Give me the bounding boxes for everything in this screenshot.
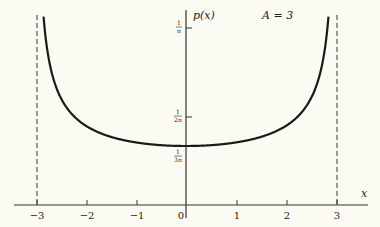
parameter-annotation: A = 3: [261, 9, 293, 22]
x-tick-label: 2: [284, 210, 290, 221]
y-tick-label-1-over-3pi: 1 3π: [174, 148, 182, 163]
svg-text:1: 1: [176, 108, 180, 115]
y-tick-label-1-over-pi: 1 π: [176, 19, 182, 34]
x-axis-label: x: [361, 187, 368, 200]
svg-text:1: 1: [176, 148, 180, 155]
x-tick-label: 3: [334, 210, 340, 221]
y-tick-label-1-over-2pi: 1 2π: [174, 108, 182, 123]
svg-text:1: 1: [177, 19, 181, 26]
svg-text:π: π: [177, 27, 181, 34]
x-ticks: [37, 200, 337, 205]
y-ticks: [186, 28, 192, 117]
svg-text:2π: 2π: [174, 116, 182, 123]
svg-text:3π: 3π: [174, 156, 182, 163]
y-axis-label: p(x): [193, 9, 215, 22]
x-tick-label: −2: [80, 210, 95, 221]
x-tick-label: 1: [234, 210, 240, 221]
x-tick-label: −3: [30, 210, 45, 221]
x-tick-label: −1: [130, 210, 145, 221]
x-tick-label: 0: [178, 210, 184, 221]
chart: −3 −2 −1 0 1 2 3 x p(x) A = 3 1 π 1 2π 1…: [0, 0, 380, 227]
